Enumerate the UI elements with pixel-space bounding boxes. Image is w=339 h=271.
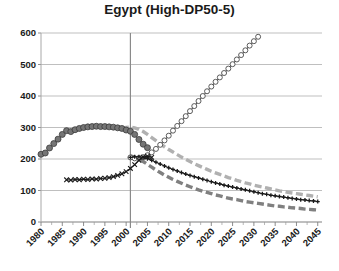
data-point [214, 181, 218, 185]
x-axis-tick-label: 2020 [194, 226, 217, 249]
data-point [209, 180, 213, 184]
data-point [167, 166, 171, 170]
data-point [217, 75, 222, 80]
data-point [234, 57, 239, 62]
x-axis-tick-label: 2030 [237, 226, 260, 249]
x-axis-tick-label: 2010 [151, 226, 174, 249]
data-point [256, 191, 260, 195]
data-point [222, 71, 227, 76]
data-point [179, 119, 184, 124]
data-point [196, 99, 201, 104]
data-point [42, 150, 48, 156]
data-point [307, 199, 311, 203]
data-point [192, 104, 197, 109]
data-point [299, 198, 303, 202]
data-point [290, 196, 294, 200]
x-axis-tick-label: 1980 [24, 226, 47, 249]
data-point [166, 133, 171, 138]
data-point [188, 109, 193, 114]
data-point [222, 183, 226, 187]
data-point [170, 128, 175, 133]
x-axis-tick-label: 2035 [258, 225, 281, 248]
data-point [132, 162, 137, 167]
data-point [265, 192, 269, 196]
series-projection-rising [128, 34, 261, 161]
x-axis-tick-label: 1990 [66, 226, 89, 249]
data-point [183, 114, 188, 119]
x-axis: 1980198519901995200020052010201520202025… [24, 222, 324, 248]
data-point [269, 193, 273, 197]
x-axis-tick-label: 2015 [173, 225, 196, 248]
data-point [311, 199, 315, 203]
data-point [273, 194, 277, 198]
gridlines: 0100200300400500600 [20, 27, 322, 227]
series-projection-plus-declining [128, 155, 319, 204]
data-point [162, 164, 166, 168]
data-point [132, 131, 138, 137]
data-point [282, 195, 286, 199]
data-point [213, 79, 218, 84]
y-axis-tick-label: 300 [20, 122, 36, 133]
data-point [247, 43, 252, 48]
data-point [226, 184, 230, 188]
x-axis-tick-label: 2045 [300, 225, 323, 248]
y-axis-tick-label: 200 [20, 153, 36, 164]
data-point [188, 173, 192, 177]
series-projection-crossing-declining [64, 154, 154, 183]
y-axis-tick-label: 0 [31, 216, 36, 227]
data-point [175, 169, 179, 173]
chart-plot: 0100200300400500600198019851990199520002… [0, 0, 339, 271]
data-point [120, 172, 125, 177]
data-point [277, 194, 281, 198]
x-axis-tick-label: 2005 [130, 225, 153, 248]
data-point [256, 34, 261, 39]
y-axis-tick-label: 400 [20, 90, 36, 101]
data-point [205, 178, 209, 182]
data-point [144, 145, 150, 151]
data-point [231, 185, 235, 189]
data-point [286, 196, 290, 200]
x-axis-tick-label: 1995 [88, 225, 111, 248]
x-axis-tick-label: 2025 [215, 225, 238, 248]
data-point [171, 167, 175, 171]
data-point [316, 200, 320, 204]
data-point [162, 138, 167, 143]
data-point [294, 197, 298, 201]
data-point [239, 53, 244, 58]
data-point [260, 192, 264, 196]
data-point [197, 176, 201, 180]
data-point [153, 146, 158, 151]
data-point [180, 171, 184, 175]
data-point [243, 188, 247, 192]
data-point [175, 123, 180, 128]
data-point [251, 39, 256, 44]
x-axis-tick-label: 1985 [45, 225, 68, 248]
chart-container: Egypt (High-DP50-5) 01002003004005006001… [0, 0, 339, 271]
data-point [303, 198, 307, 202]
x-axis-tick-label: 2000 [109, 226, 132, 249]
data-point [192, 175, 196, 179]
data-point [230, 62, 235, 67]
data-point [205, 89, 210, 94]
data-point [209, 84, 214, 89]
data-point [243, 48, 248, 53]
data-point [226, 66, 231, 71]
data-point [184, 172, 188, 176]
data-point [154, 160, 158, 164]
data-point [124, 169, 129, 174]
y-axis-tick-label: 500 [20, 59, 36, 70]
data-point [235, 186, 239, 190]
data-point [200, 94, 205, 99]
y-axis-tick-label: 600 [20, 27, 36, 38]
data-point [218, 182, 222, 186]
data-point [201, 177, 205, 181]
data-point [158, 142, 163, 147]
data-point [248, 189, 252, 193]
x-axis-tick-label: 2040 [279, 226, 302, 249]
y-axis-tick-label: 100 [20, 185, 36, 196]
data-point [158, 162, 162, 166]
